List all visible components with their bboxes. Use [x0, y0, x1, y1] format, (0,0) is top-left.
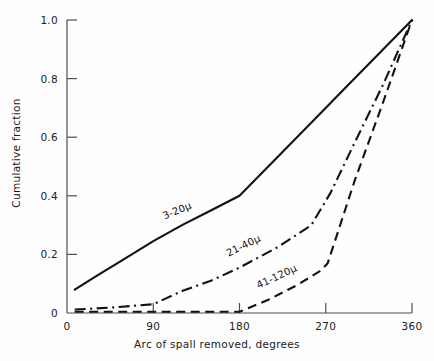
- plot-area: [0, 0, 434, 361]
- y-axis-title: Cumulative fraction: [10, 93, 22, 213]
- chart-figure: 1.0 0.8 0.6 0.4 0.2 0 0 90 180 270 360 A…: [0, 0, 434, 361]
- y-tick-label-1.0: 1.0: [27, 14, 58, 26]
- y-tick-label-0: 0: [27, 307, 58, 319]
- y-tick-label-0.2: 0.2: [27, 248, 58, 260]
- x-tick-label-360: 360: [398, 320, 426, 332]
- y-tick-marks: [67, 20, 77, 254]
- x-tick-label-0: 0: [53, 320, 81, 332]
- x-tick-label-180: 180: [226, 320, 254, 332]
- y-tick-label-0.4: 0.4: [27, 190, 58, 202]
- x-axis-title: Arc of spall removed, degrees: [0, 338, 434, 350]
- x-tick-label-270: 270: [312, 320, 340, 332]
- x-tick-label-90: 90: [139, 320, 167, 332]
- y-tick-label-0.6: 0.6: [27, 131, 58, 143]
- y-tick-label-0.8: 0.8: [27, 73, 58, 85]
- series-line-41-120: [75, 20, 412, 312]
